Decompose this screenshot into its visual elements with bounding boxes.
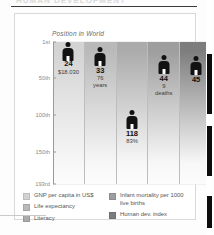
person-body (126, 116, 137, 129)
y-tick-mark (53, 184, 56, 185)
legend-item-label: Infant mortality per 1000 live births (120, 192, 189, 208)
figure-page: HUMAN DEVELOPMENT Position in World 24$1… (0, 0, 214, 235)
scrollbar[interactable] (206, 0, 212, 235)
scrollbar-thumb[interactable] (207, 126, 212, 176)
legend-item-label: Life expectancy (34, 203, 75, 211)
person-head (194, 56, 199, 61)
data-point-rank: 118 (126, 130, 138, 139)
person-icon (191, 56, 202, 75)
chart-axis-title: Position in World (52, 30, 104, 37)
y-axis-line: 1st50th100th150th193rd (53, 42, 54, 184)
legend-item-label: Human dev. index (120, 211, 167, 219)
data-point-rank: 24 (58, 60, 79, 69)
person-body (158, 61, 169, 74)
data-point-label: 24$18.030 (58, 60, 79, 75)
person-head (161, 55, 166, 60)
legend-swatch-icon (23, 193, 30, 200)
chart-column: 24$18.030 (53, 42, 85, 184)
person-icon (158, 55, 169, 74)
legend-item[interactable]: Human dev. index (109, 211, 189, 219)
data-point-label: 11883% (126, 130, 138, 145)
legend-item[interactable]: GNP per capita in US$ (23, 192, 103, 200)
data-point-label: 449deaths (155, 75, 172, 97)
data-point-value: 9 (155, 83, 172, 90)
legend-swatch-icon (23, 215, 30, 222)
chart-column: 449deaths (148, 42, 180, 184)
legend-item[interactable]: Life expectancy (23, 203, 103, 211)
person-head (129, 110, 134, 115)
y-tick-label: 50th (39, 75, 50, 81)
data-point-rank: 44 (155, 75, 172, 84)
person-head (98, 47, 103, 52)
data-point-label: 45 (192, 76, 200, 85)
person-head (66, 42, 71, 47)
legend-item-label: Literacy (34, 215, 55, 223)
data-point-value: 76 (93, 75, 107, 82)
legend-swatch-icon (109, 193, 116, 200)
chart-column: 3376years (85, 42, 117, 184)
legend-swatch-icon (23, 204, 30, 211)
header-rule (11, 6, 197, 7)
chart-column: 11883% (117, 42, 149, 184)
person-icon (126, 110, 137, 129)
data-point-rank: 33 (93, 67, 107, 76)
data-point-rank: 45 (192, 76, 200, 85)
chart-figure-card: Position in World 24$18.0303376years1188… (14, 13, 196, 220)
data-point-value: 83% (126, 138, 138, 145)
y-tick-label: 100th (35, 112, 50, 118)
person-icon (95, 47, 106, 66)
chart-legend: GNP per capita in US$Life expectancyLite… (23, 192, 189, 226)
legend-swatch-icon (109, 212, 116, 219)
legend-item-label: GNP per capita in US$ (34, 192, 93, 200)
y-tick-label: 193rd (35, 181, 50, 187)
y-tick-label: 1st (42, 39, 50, 45)
chart-plot-area: 24$18.0303376years11883%449deaths45 (53, 42, 212, 184)
person-body (191, 62, 202, 75)
data-point-value: $18.030 (58, 69, 79, 76)
y-tick-mark (53, 42, 56, 43)
legend-item[interactable]: Infant mortality per 1000 live births (109, 192, 189, 208)
page-edge-rule (0, 215, 46, 216)
legend-item[interactable]: Literacy (23, 215, 103, 223)
data-point-label: 3376years (93, 67, 107, 89)
data-point-unit: deaths (155, 90, 172, 97)
y-tick-mark (53, 152, 56, 153)
y-tick-mark (53, 78, 56, 79)
data-point-unit: years (93, 82, 107, 89)
legend-column-right: Infant mortality per 1000 live birthsHum… (109, 192, 189, 226)
scrollbar-thumb[interactable] (207, 54, 212, 114)
cut-off-page-heading: HUMAN DEVELOPMENT (16, 0, 186, 5)
y-tick-mark (53, 115, 56, 116)
person-body (95, 53, 106, 66)
y-tick-label: 150th (35, 149, 50, 155)
legend-column-left: GNP per capita in US$Life expectancyLite… (23, 192, 103, 226)
scrollbar-thumb[interactable] (207, 196, 212, 228)
